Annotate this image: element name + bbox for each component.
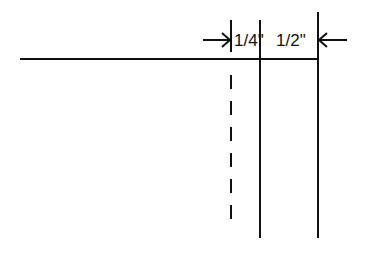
- dimension-label-quarter-inch: 1/4": [234, 32, 264, 49]
- seam-allowance-diagram: 1/4" 1/2": [0, 0, 367, 256]
- diagram-drawing: [0, 0, 367, 256]
- arrow-right-icon: [203, 33, 230, 47]
- dimension-label-half-inch: 1/2": [276, 32, 306, 49]
- arrow-left-icon: [319, 33, 347, 47]
